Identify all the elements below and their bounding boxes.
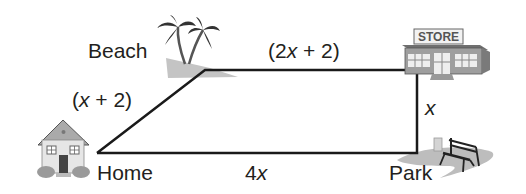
side-label-home-beach: (x + 2)	[72, 88, 132, 111]
store-icon: STORE	[402, 29, 490, 80]
location-label-beach: Beach	[88, 39, 148, 62]
route-diagram: STORE	[0, 0, 526, 194]
location-label-park: Park	[389, 161, 433, 184]
side-label-park-home: 4x	[245, 161, 269, 184]
side-label-store-park: x	[424, 96, 437, 119]
house-icon	[37, 120, 90, 178]
location-label-home: Home	[97, 161, 153, 184]
palm-trees-icon	[157, 15, 220, 64]
route-path	[97, 70, 417, 153]
side-label-beach-store: (2x + 2)	[268, 39, 340, 62]
store-sign-text: STORE	[418, 30, 459, 44]
beach-sand	[166, 58, 238, 78]
